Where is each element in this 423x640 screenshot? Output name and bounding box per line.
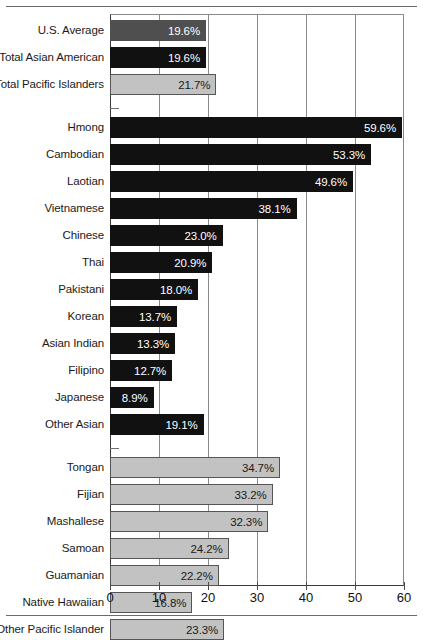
bar[interactable]: 21.7% <box>110 74 216 95</box>
bar-value-label: 19.6% <box>168 25 205 37</box>
bar[interactable]: 20.9% <box>110 252 212 273</box>
x-tick-mark-60 <box>404 582 405 590</box>
bar[interactable]: 19.6% <box>110 20 206 41</box>
bottom-divider-rule <box>6 615 417 616</box>
category-label: Laotian <box>67 171 104 192</box>
bar-value-label: 49.6% <box>315 176 352 188</box>
bar-value-label: 53.3% <box>333 149 370 161</box>
bar[interactable]: 19.6% <box>110 47 206 68</box>
category-label: Tongan <box>67 457 104 478</box>
bar-value-label: 8.9% <box>122 392 153 404</box>
bar-value-label: 19.6% <box>168 52 205 64</box>
x-tick-mark-40 <box>306 582 307 590</box>
bar-row: Hmong59.6% <box>110 117 404 138</box>
bar[interactable]: 23.0% <box>110 225 223 246</box>
category-label: Vietnamese <box>44 198 104 219</box>
bar-row: Mashallese32.3% <box>110 511 404 532</box>
x-tick-label-50: 50 <box>348 590 362 605</box>
x-tick-mark-10 <box>159 582 160 590</box>
bar-row: Thai20.9% <box>110 252 404 273</box>
bar[interactable]: 33.2% <box>110 484 273 505</box>
x-axis-tick-labels: 0102030405060 <box>110 590 404 610</box>
bar[interactable]: 38.1% <box>110 198 297 219</box>
bar-row: Asian Indian13.3% <box>110 333 404 354</box>
category-label: Japanese <box>55 387 104 408</box>
x-tick-label-10: 10 <box>152 590 166 605</box>
bar[interactable]: 59.6% <box>110 117 402 138</box>
category-label: Fijian <box>77 484 104 505</box>
bar-row: Chinese23.0% <box>110 225 404 246</box>
bar[interactable]: 53.3% <box>110 144 371 165</box>
x-tick-mark-30 <box>257 582 258 590</box>
bar-row: Japanese8.9% <box>110 387 404 408</box>
category-label: Native Hawaiian <box>22 592 104 613</box>
category-label: Chinese <box>63 225 105 246</box>
bar[interactable]: 12.7% <box>110 360 172 381</box>
bar-row: Total Pacific Islanders21.7% <box>110 74 404 95</box>
top-divider-rule <box>6 6 417 7</box>
bar-value-label: 34.7% <box>242 462 279 474</box>
bar-row: Laotian49.6% <box>110 171 404 192</box>
category-label: Mashallese <box>47 511 104 532</box>
bar-value-label: 59.6% <box>364 122 401 134</box>
x-tick-label-30: 30 <box>250 590 264 605</box>
bar-value-label: 19.1% <box>165 419 202 431</box>
bar[interactable]: 18.0% <box>110 279 198 300</box>
bar-rows: U.S. Average19.6%Total Asian American19.… <box>110 14 404 586</box>
group-separator-tick <box>110 108 119 109</box>
bar-value-label: 18.0% <box>160 284 197 296</box>
group-separator-tick <box>110 448 119 449</box>
bar-value-label: 23.0% <box>185 230 222 242</box>
category-label: Samoan <box>62 538 104 559</box>
category-label: U.S. Average <box>38 20 104 41</box>
bar-value-label: 13.3% <box>137 338 174 350</box>
bar-row: Filipino12.7% <box>110 360 404 381</box>
category-label: Pakistani <box>58 279 104 300</box>
category-label: Total Asian American <box>0 47 104 68</box>
bar-value-label: 20.9% <box>174 257 211 269</box>
x-tick-mark-20 <box>208 582 209 590</box>
bar-value-label: 12.7% <box>134 365 171 377</box>
category-label: Hmong <box>67 117 104 138</box>
bar-row: Samoan24.2% <box>110 538 404 559</box>
category-label: Other Pacific Islander <box>0 619 104 640</box>
bar-value-label: 23.3% <box>186 624 223 636</box>
bar-value-label: 33.2% <box>235 489 272 501</box>
bar-row: Tongan34.7% <box>110 457 404 478</box>
bar[interactable]: 13.7% <box>110 306 177 327</box>
bar-value-label: 38.1% <box>259 203 296 215</box>
bar[interactable]: 34.7% <box>110 457 280 478</box>
category-label: Other Asian <box>45 414 104 435</box>
bar-value-label: 22.2% <box>181 570 218 582</box>
bar[interactable]: 8.9% <box>110 387 154 408</box>
bar-row: Korean13.7% <box>110 306 404 327</box>
category-label: Guamanian <box>45 565 104 586</box>
bar[interactable]: 49.6% <box>110 171 353 192</box>
bar-row: Pakistani18.0% <box>110 279 404 300</box>
x-tick-label-0: 0 <box>106 590 113 605</box>
category-label: Korean <box>68 306 104 327</box>
bar[interactable]: 23.3% <box>110 619 224 640</box>
bar-row: Total Asian American19.6% <box>110 47 404 68</box>
bar-value-label: 13.7% <box>139 311 176 323</box>
bar[interactable]: 24.2% <box>110 538 229 559</box>
x-tick-label-60: 60 <box>397 590 411 605</box>
bar-value-label: 21.7% <box>178 79 215 91</box>
category-label: Cambodian <box>46 144 104 165</box>
category-label: Total Pacific Islanders <box>0 74 104 95</box>
x-tick-mark-0 <box>110 582 111 590</box>
bar[interactable]: 13.3% <box>110 333 175 354</box>
bar-row: Vietnamese38.1% <box>110 198 404 219</box>
bar[interactable]: 22.2% <box>110 565 219 586</box>
x-tick-label-20: 20 <box>201 590 215 605</box>
x-tick-label-40: 40 <box>299 590 313 605</box>
bar-row: Fijian33.2% <box>110 484 404 505</box>
bar-row: Other Pacific Islander23.3% <box>110 619 404 640</box>
category-label: Asian Indian <box>42 333 104 354</box>
bar-row: Other Asian19.1% <box>110 414 404 435</box>
bar[interactable]: 19.1% <box>110 414 204 435</box>
bar-row: U.S. Average19.6% <box>110 20 404 41</box>
category-label: Filipino <box>68 360 104 381</box>
bar[interactable]: 32.3% <box>110 511 268 532</box>
